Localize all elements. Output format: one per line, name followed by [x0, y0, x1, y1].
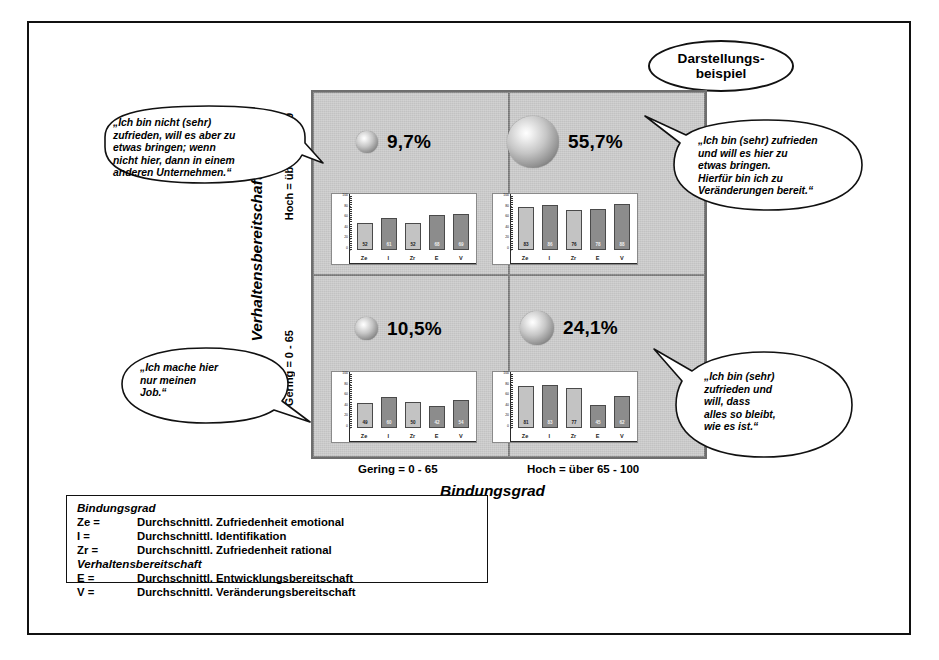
mini-chart-y-tick: 40: [505, 226, 509, 229]
legend-row-key: V =: [77, 585, 137, 599]
callout-top-left-text: „Ich bin nicht (sehr) zufrieden, will es…: [113, 117, 235, 180]
bar-value-label: 83: [524, 242, 529, 249]
mini-chart-x-tick-label: Ze: [356, 255, 372, 261]
bar: 68: [429, 215, 445, 250]
bar: 61: [381, 218, 397, 250]
mini-chart-y-tick: 100: [503, 372, 509, 375]
bar-value-label: 81: [524, 420, 529, 427]
x-axis-high-label: Hoch = über 65 - 100: [527, 463, 639, 475]
bar: 78: [590, 209, 606, 250]
bar-value-label: 83: [548, 420, 553, 427]
bar: 76: [566, 210, 582, 250]
legend-row-desc: Durchschnittl. Zufriedenheit rational: [137, 543, 487, 557]
mini-chart-y-tick: 80: [505, 205, 509, 208]
mini-chart-x-tick-label: E: [429, 255, 445, 261]
mini-chart-x-tick-label: Ze: [517, 255, 533, 261]
legend-row: Ze =Durchschnittl. Zufriedenheit emotion…: [77, 515, 487, 529]
mini-chart-y-axis: 020406080100: [332, 194, 350, 264]
legend-row-key: Ze =: [77, 515, 137, 529]
mini-bar-chart-bottom-right: 0204060801008183774562ZeIZrEV: [492, 371, 638, 443]
mini-chart-x-axis: ZeIZrEV: [349, 429, 476, 442]
mini-chart-y-tick: 20: [344, 415, 348, 418]
mini-chart-x-tick-label: E: [590, 433, 606, 439]
bar-value-label: 54: [459, 420, 464, 427]
percent-row-bottom-left: 10,5%: [355, 317, 442, 340]
bar-value-label: 68: [435, 242, 440, 249]
percent-top-right: 55,7%: [568, 131, 623, 153]
percent-row-top-right: 55,7%: [507, 116, 623, 168]
mini-chart-y-tick: 80: [505, 383, 509, 386]
mini-chart-x-tick-label: I: [380, 255, 396, 261]
mini-bar-chart-top-left: 0204060801005261526869ZeIZrEV: [331, 193, 477, 265]
legend-row: E =Durchschnittl. Entwicklungsbereitscha…: [77, 571, 487, 585]
bar: 88: [614, 204, 630, 250]
mini-chart-x-tick-label: V: [614, 433, 630, 439]
bar: 45: [590, 405, 606, 428]
mini-chart-x-tick-label: I: [380, 433, 396, 439]
mini-chart-x-tick-label: V: [453, 255, 469, 261]
percent-bottom-right: 24,1%: [563, 317, 618, 339]
percent-row-bottom-right: 24,1%: [520, 311, 618, 345]
mini-chart-y-axis: 020406080100: [493, 194, 511, 264]
sphere-icon: [520, 311, 554, 345]
callout-top-right: „Ich bin (sehr) zufrieden und will es hi…: [640, 113, 872, 229]
bar-value-label: 52: [363, 242, 368, 249]
bar-value-label: 86: [548, 242, 553, 249]
mini-chart-y-tick: 20: [505, 237, 509, 240]
mini-chart-y-tick: 60: [344, 215, 348, 218]
mini-chart-y-tick: 40: [505, 404, 509, 407]
mini-bar-chart-top-right: 0204060801008386767888ZeIZrEV: [492, 193, 638, 265]
callout-bottom-right-text: „Ich bin (sehr) zufrieden und will, dass…: [704, 371, 776, 434]
bar-value-label: 69: [459, 242, 464, 249]
bar-value-label: 42: [435, 420, 440, 427]
legend-row-desc: Durchschnittl. Entwicklungsbereitschaft: [137, 571, 487, 585]
mini-chart-x-tick-label: E: [429, 433, 445, 439]
percent-top-left: 9,7%: [387, 131, 431, 153]
bar: 50: [405, 402, 421, 428]
mini-chart-x-tick-label: Ze: [356, 433, 372, 439]
mini-bar-chart-bottom-left: 0204060801004960504254ZeIZrEV: [331, 371, 477, 443]
mini-chart-y-tick: 100: [503, 194, 509, 197]
mini-chart-x-tick-label: Zr: [404, 255, 420, 261]
bar: 42: [429, 406, 445, 428]
bar-value-label: 61: [387, 242, 392, 249]
mini-chart-x-axis: ZeIZrEV: [510, 429, 637, 442]
legend-box: Bindungsgrad Ze =Durchschnittl. Zufriede…: [66, 495, 488, 583]
darstellungsbeispiel-badge: Darstellungs- beispiel: [648, 40, 794, 92]
bar-value-label: 78: [596, 242, 601, 249]
mini-chart-y-tick: 20: [344, 237, 348, 240]
mini-chart-y-axis: 020406080100: [332, 372, 350, 442]
percent-row-top-left: 9,7%: [356, 131, 431, 153]
bar-value-label: 52: [411, 242, 416, 249]
mini-chart-x-tick-label: E: [590, 255, 606, 261]
legend-row: Zr =Durchschnittl. Zufriedenheit rationa…: [77, 543, 487, 557]
sphere-icon: [356, 131, 378, 153]
mini-chart-y-tick: 0: [507, 425, 509, 428]
sphere-icon: [355, 317, 378, 340]
callout-bottom-left: „Ich mache hier nur meinen Job.“: [118, 344, 316, 430]
mini-chart-x-tick-label: Ze: [517, 433, 533, 439]
mini-chart-y-tick: 100: [342, 372, 348, 375]
bar-value-label: 49: [363, 420, 368, 427]
bar: 60: [381, 397, 397, 428]
bar: 83: [542, 385, 558, 428]
legend-row-key: I =: [77, 529, 137, 543]
callout-top-right-text: „Ich bin (sehr) zufrieden und will es hi…: [698, 135, 818, 198]
mini-chart-x-tick-label: V: [453, 433, 469, 439]
y-axis-title: Verhaltensbereitschaft: [248, 175, 266, 342]
callout-bottom-right: „Ich bin (sehr) zufrieden und will, dass…: [652, 345, 872, 463]
mini-chart-y-tick: 60: [505, 215, 509, 218]
bar: 54: [453, 400, 469, 428]
mini-chart-y-tick: 60: [505, 393, 509, 396]
x-axis-low-label: Gering = 0 - 65: [358, 463, 438, 475]
mini-chart-y-tick: 80: [344, 383, 348, 386]
legend-group-1-title: Bindungsgrad: [77, 501, 487, 515]
bar-value-label: 45: [596, 420, 601, 427]
mini-chart-y-tick: 40: [344, 404, 348, 407]
legend-group-2-title: Verhaltensbereitschaft: [77, 557, 487, 571]
bar: 86: [542, 205, 558, 250]
bar: 52: [405, 223, 421, 250]
slide-root: Darstellungs- beispiel Verhaltensbereits…: [0, 0, 939, 660]
bar-value-label: 76: [572, 242, 577, 249]
mini-chart-y-tick: 0: [346, 425, 348, 428]
